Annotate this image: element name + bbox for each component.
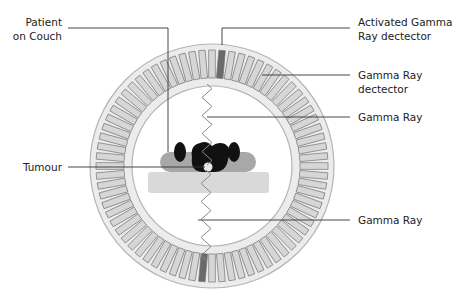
patient-right-part [228, 142, 240, 162]
detector [96, 163, 124, 170]
label-patient-on-couch: Patient on Couch [0, 15, 62, 43]
label-activated-detector: Activated Gamma Ray dectector [358, 15, 453, 43]
label-tumour: Tumour [0, 160, 62, 174]
detector [300, 163, 328, 170]
detector [209, 50, 216, 78]
leader-activated-detector [222, 28, 350, 45]
label-gamma-ray-top: Gamma Ray [358, 110, 423, 124]
label-detector: Gamma Ray dectector [358, 68, 423, 96]
patient-left-part [174, 142, 186, 162]
pet-scanner-diagram [0, 0, 461, 302]
label-gamma-ray-bottom: Gamma Ray [358, 213, 423, 227]
detector [209, 254, 216, 282]
